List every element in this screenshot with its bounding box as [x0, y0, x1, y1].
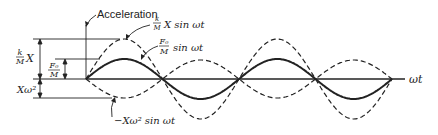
svg-text:M: M	[15, 57, 25, 66]
label-curve-displacement: k M X sin ωt	[152, 15, 205, 32]
svg-text:X: X	[25, 52, 35, 65]
dim-X-omega2	[38, 79, 42, 98]
label-curve-acceleration: −Xω² sin ωt	[114, 115, 176, 126]
label-kM-X: k M X	[15, 48, 35, 66]
label-omega-t: ωt	[409, 73, 423, 86]
label-F0-M: F₀ M	[48, 61, 60, 79]
svg-text:F₀: F₀	[49, 61, 60, 70]
svg-text:k: k	[155, 15, 159, 23]
svg-text:M: M	[49, 70, 59, 79]
svg-text:k: k	[18, 48, 23, 57]
dim-F0-M	[63, 59, 67, 79]
label-curve-force: F₀ M sin ωt	[159, 37, 204, 56]
svg-text:F₀: F₀	[159, 37, 170, 46]
svg-text:M: M	[152, 24, 161, 32]
label-X-omega2: Xω²	[16, 84, 36, 95]
dim-kM-X	[38, 39, 42, 79]
vibration-phase-diagram: Acceleration ωt k M X F₀ M Xω² k M X sin…	[0, 0, 438, 135]
svg-text:X sin ωt: X sin ωt	[163, 19, 205, 30]
svg-text:sin ωt: sin ωt	[173, 42, 204, 53]
svg-text:M: M	[159, 47, 169, 56]
label-acceleration: Acceleration	[97, 8, 158, 20]
leader-displacement	[127, 25, 150, 38]
